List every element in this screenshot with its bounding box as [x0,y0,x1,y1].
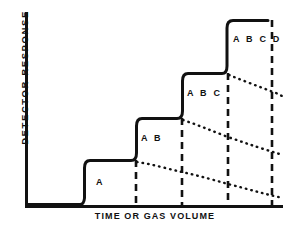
dotted-decay-2 [183,120,283,155]
y-axis-label: DETECTOR RESPONSE [19,8,30,148]
plateau-label-abcd: A B C D [233,34,282,44]
dotted-decay-3 [229,75,284,97]
x-axis-label: TIME OR GAS VOLUME [26,211,284,221]
integral-step-curve [27,21,268,205]
plateau-label-a: A [96,177,105,187]
dotted-decay-1 [137,162,283,198]
dashed-dividers [136,20,272,206]
integral-chromatogram-figure: A A B A B C A B C D DETECTOR RESPONSE TI… [0,0,297,234]
plateau-label-abc: A B C [187,88,222,98]
plateau-label-ab: A B [141,133,163,143]
